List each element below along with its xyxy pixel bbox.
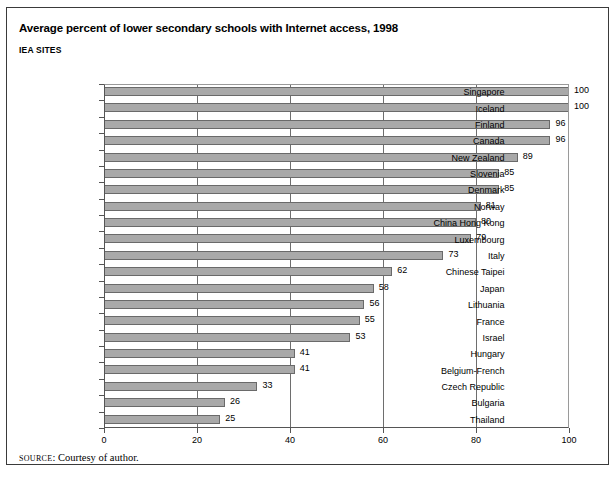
x-axis-tick: [476, 428, 477, 433]
x-axis-label: 40: [275, 435, 305, 445]
category-label: Lithuania: [468, 300, 505, 310]
bar: [104, 349, 295, 358]
chart-subtitle: IEA SITES: [19, 45, 62, 55]
category-label: France: [476, 317, 504, 327]
x-axis-label: 80: [461, 435, 491, 445]
figure-frame: Average percent of lower secondary schoo…: [6, 7, 609, 465]
y-axis-tick: [99, 199, 104, 200]
source-text: Courtesy of author.: [58, 452, 139, 463]
bar-value-label: 25: [225, 413, 235, 423]
bar-value-label: 100: [574, 101, 589, 111]
category-label: Czech Republic: [441, 382, 504, 392]
y-axis-tick: [99, 313, 104, 314]
category-label: Singapore: [463, 87, 504, 97]
x-axis-tick: [383, 428, 384, 433]
chart-title: Average percent of lower secondary schoo…: [19, 22, 398, 34]
bar: [104, 316, 360, 325]
source-keyword: SOURCE: [19, 454, 52, 463]
y-axis-tick: [99, 150, 104, 151]
bar-value-label: 89: [523, 151, 533, 161]
bar: [104, 398, 225, 407]
category-label: Slovenia: [470, 169, 505, 179]
bar-value-label: 33: [262, 380, 272, 390]
bar: [104, 218, 476, 227]
bar: [104, 234, 471, 243]
bar: [104, 202, 481, 211]
y-axis-tick: [99, 330, 104, 331]
category-label: Belgium-French: [441, 366, 505, 376]
category-label: Chinese Taipei: [446, 267, 505, 277]
y-axis-tick: [99, 379, 104, 380]
y-axis-tick: [99, 166, 104, 167]
x-axis-label: 20: [182, 435, 212, 445]
x-axis-tick: [290, 428, 291, 433]
category-label: China Hong Kong: [433, 218, 504, 228]
x-axis-label: 60: [368, 435, 398, 445]
y-axis-tick: [99, 117, 104, 118]
bar-value-label: 96: [555, 134, 565, 144]
bar: [104, 185, 499, 194]
category-label: Canada: [473, 136, 505, 146]
y-axis-tick: [99, 215, 104, 216]
category-label: Thailand: [470, 415, 505, 425]
bar-value-label: 41: [300, 363, 310, 373]
source-note: SOURCE: Courtesy of author.: [19, 452, 139, 463]
bar-value-label: 41: [300, 347, 310, 357]
bar-value-label: 100: [574, 85, 589, 95]
category-label: Japan: [480, 284, 505, 294]
y-axis-tick: [99, 281, 104, 282]
category-label: Israel: [482, 333, 504, 343]
category-label: Iceland: [475, 104, 504, 114]
bar-value-label: 85: [504, 183, 514, 193]
category-label: Hungary: [470, 349, 504, 359]
bar: [104, 382, 257, 391]
y-axis-tick: [99, 297, 104, 298]
y-axis-tick: [99, 264, 104, 265]
category-label: Norway: [474, 202, 505, 212]
bar-value-label: 96: [555, 118, 565, 128]
bar: [104, 169, 499, 178]
bar-value-label: 56: [369, 298, 379, 308]
x-axis-tick: [197, 428, 198, 433]
x-axis-tick: [569, 428, 570, 433]
x-axis-tick: [104, 428, 105, 433]
category-label: Denmark: [468, 185, 505, 195]
bar: [104, 267, 392, 276]
bar-value-label: 26: [230, 396, 240, 406]
bar: [104, 365, 295, 374]
bar-value-label: 55: [365, 314, 375, 324]
bar-value-label: 58: [379, 282, 389, 292]
y-axis-tick: [99, 84, 104, 85]
category-label: Luxembourg: [454, 235, 504, 245]
category-label: Bulgaria: [471, 398, 504, 408]
y-axis-tick: [99, 428, 104, 429]
y-axis-tick: [99, 248, 104, 249]
y-axis-tick: [99, 133, 104, 134]
bar-value-label: 62: [397, 265, 407, 275]
bar: [104, 300, 364, 309]
bar-value-label: 53: [355, 331, 365, 341]
bar: [104, 415, 220, 424]
category-label: Finland: [475, 120, 505, 130]
bar-value-label: 73: [448, 249, 458, 259]
y-axis-tick: [99, 346, 104, 347]
y-axis-tick: [99, 231, 104, 232]
x-axis-label: 100: [554, 435, 584, 445]
bar: [104, 333, 350, 342]
category-label: Italy: [488, 251, 505, 261]
bar: [104, 284, 374, 293]
y-axis-tick: [99, 182, 104, 183]
bar-value-label: 85: [504, 167, 514, 177]
y-axis-tick: [99, 100, 104, 101]
bar: [104, 251, 443, 260]
y-axis-tick: [99, 395, 104, 396]
category-label: New Zealand: [451, 153, 504, 163]
y-axis-tick: [99, 412, 104, 413]
x-axis-label: 0: [89, 435, 119, 445]
y-axis-tick: [99, 362, 104, 363]
